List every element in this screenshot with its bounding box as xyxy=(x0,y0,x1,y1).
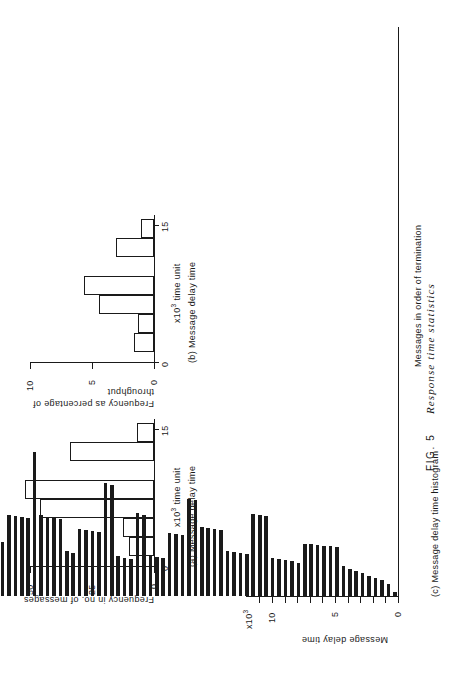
panel-a-x-axis xyxy=(154,419,155,567)
bar-c-23 xyxy=(251,514,255,596)
panel-c-ytick-11 xyxy=(259,597,260,603)
panel-c-ytick-8 xyxy=(297,597,298,603)
bar-c-39 xyxy=(149,556,153,596)
bar-c-5 xyxy=(367,576,371,596)
panel-b-xlabel-15: 15 xyxy=(160,222,170,232)
bar-c-52 xyxy=(65,551,69,596)
bar-c-58 xyxy=(26,518,30,596)
bar-b-1 xyxy=(134,333,154,352)
panel-a-x-unit-base: x10 xyxy=(172,511,182,527)
panel-a-x-unit-tail: time unit xyxy=(172,467,182,507)
bar-c-55 xyxy=(46,517,50,596)
bar-b-4 xyxy=(84,276,154,295)
bar-c-56 xyxy=(39,515,43,596)
bar-c-30 xyxy=(206,528,210,596)
panel-c-ytick-1 xyxy=(385,597,386,603)
bar-c-3 xyxy=(380,580,384,596)
bar-c-27 xyxy=(226,551,230,596)
bar-c-61 xyxy=(7,515,11,596)
bar-c-19 xyxy=(277,559,281,596)
bar-c-6 xyxy=(361,573,365,596)
figure-number: FIG. 5 xyxy=(425,434,436,471)
panel-b-x-unit-base: x10 xyxy=(172,307,182,323)
panel-b-x-axis xyxy=(154,215,155,363)
panel-b-y-axis-label-line1: Frequency as percentage of xyxy=(33,399,154,409)
panel-c-ytick-5 xyxy=(335,597,336,603)
panel-c-y-unit-label: x103 xyxy=(242,609,254,629)
figure-page: 0 25 50 0 15 Frequency in no. of message… xyxy=(0,0,455,699)
bar-c-57 xyxy=(33,452,37,596)
bar-c-62 xyxy=(1,542,5,596)
panel-c-ytick-9 xyxy=(285,597,286,603)
bar-c-43 xyxy=(123,558,127,596)
bar-c-45 xyxy=(110,485,114,596)
panel-a-x-unit-exp: 3 xyxy=(170,507,177,511)
bar-b-7 xyxy=(141,219,154,238)
bar-c-29 xyxy=(213,529,217,596)
bar-c-42 xyxy=(129,559,133,596)
bar-c-25 xyxy=(239,553,243,596)
panel-c-y-unit-exp: 3 xyxy=(242,609,249,613)
bar-c-53 xyxy=(59,519,63,596)
panel-c-y-axis-label: Message delay time xyxy=(302,635,388,645)
bar-c-50 xyxy=(78,529,82,596)
bar-b-6 xyxy=(116,238,154,257)
panel-b-ytick-5 xyxy=(92,363,93,369)
bar-c-8 xyxy=(348,569,352,596)
bar-c-32 xyxy=(194,500,198,596)
figure-caption: FIG. 5 Response time statistics xyxy=(424,283,436,471)
bar-c-59 xyxy=(20,517,24,596)
bar-c-7 xyxy=(354,571,358,596)
bar-c-40 xyxy=(142,515,146,596)
panel-c-ytick-10 xyxy=(272,597,273,603)
panel-a-x-unit-label: x103 time unit xyxy=(170,467,182,527)
bar-c-18 xyxy=(284,560,288,596)
panel-b-ylabel-5: 5 xyxy=(87,380,97,385)
bar-c-46 xyxy=(104,483,108,596)
panel-b-ytick-10 xyxy=(30,363,31,369)
panel-c-ytick-4 xyxy=(348,597,349,603)
bar-c-21 xyxy=(264,516,268,596)
bar-c-22 xyxy=(258,515,262,596)
bar-c-47 xyxy=(97,532,101,596)
bar-c-48 xyxy=(91,531,95,596)
bar-a-4 xyxy=(25,480,154,499)
bar-c-37 xyxy=(161,558,165,596)
panel-b-xlabel-0: 0 xyxy=(160,362,170,367)
panel-b-ytick-0 xyxy=(154,363,155,369)
bar-c-33 xyxy=(187,499,191,596)
panel-a-xtick-15 xyxy=(154,429,159,430)
panel-c-ytick-2 xyxy=(373,597,374,603)
bar-c-4 xyxy=(374,578,378,596)
bar-b-2 xyxy=(138,314,154,333)
panel-c-ytick-6 xyxy=(322,597,323,603)
bar-c-13 xyxy=(316,545,320,596)
panel-c-caption: (c) Message delay time histogram xyxy=(430,451,440,597)
bar-c-44 xyxy=(116,556,120,596)
bar-c-31 xyxy=(200,527,204,596)
bar-c-41 xyxy=(136,513,140,596)
panel-a-y-axis-label: Frequency in no. of messages xyxy=(24,595,154,605)
bar-c-54 xyxy=(52,518,56,596)
figure-title: Response time statistics xyxy=(424,283,436,414)
bar-c-1 xyxy=(393,592,397,596)
bar-b-3 xyxy=(99,295,154,314)
panel-c-message-delay-time-histogram: 0 5 10 x103 Message delay time Messages … xyxy=(238,17,448,677)
bar-c-2 xyxy=(387,584,391,596)
panel-b-caption: (b) Message delay time xyxy=(187,262,197,363)
bar-c-28 xyxy=(219,530,223,596)
panel-b-ylabel-0: 0 xyxy=(149,380,159,385)
panel-c-y-unit-base: x10 xyxy=(244,613,254,629)
figure-rotor: 0 25 50 0 15 Frequency in no. of message… xyxy=(0,0,455,699)
bar-c-14 xyxy=(309,544,313,596)
bar-c-20 xyxy=(271,558,275,596)
bar-c-35 xyxy=(174,534,178,596)
panel-b-ylabel-10: 10 xyxy=(25,381,35,391)
bar-a-6 xyxy=(70,442,154,461)
panel-a-xlabel-15: 15 xyxy=(160,426,170,436)
bar-c-12 xyxy=(322,546,326,596)
panel-b-y-axis-label-line2: throughput xyxy=(107,387,154,397)
panel-c-x-axis-label: Messages in order of termination xyxy=(413,225,423,367)
bar-a-7 xyxy=(137,423,154,442)
bar-c-24 xyxy=(245,554,249,596)
